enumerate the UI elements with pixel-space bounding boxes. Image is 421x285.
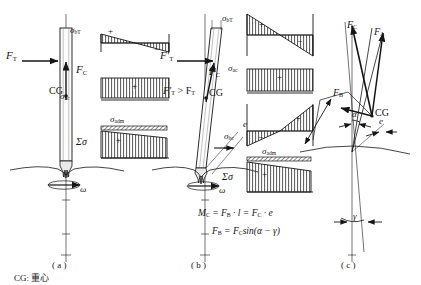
sign-minus-a-bending: −	[154, 45, 159, 54]
label-force-bend-c: FB	[333, 88, 343, 99]
label-inequality-b: F′T > FT	[163, 86, 195, 97]
stress-plot-b-bending-comp	[247, 104, 313, 146]
panel-caption-b: ( b )	[191, 260, 206, 270]
label-sigma-adm-b: σadm	[262, 147, 276, 157]
panel-c-drawing	[300, 22, 410, 262]
sign-plus-a-bending: +	[108, 27, 113, 36]
figure-legend: CG: 重心	[14, 271, 49, 284]
label-cg-b: CG	[209, 88, 223, 98]
label-eccentricity-b: e	[243, 120, 247, 129]
stress-plot-b-sum	[247, 157, 313, 192]
label-sigma-ac-a: σac	[60, 92, 69, 102]
sign-plus-a-axial: +	[132, 82, 137, 91]
sign-minus-b-bending-comp: −	[258, 133, 263, 142]
label-sigma-ac-b: σac	[228, 64, 237, 74]
sign-plus-b-bending-tension: +	[259, 20, 264, 29]
label-force-axial-c: FA	[374, 27, 385, 38]
stress-plot-a-sum	[101, 126, 169, 158]
sign-plus-b-bending-comp: +	[296, 114, 301, 123]
label-sigma-bc-b: σbc	[224, 132, 234, 142]
label-omega-b: ω	[219, 186, 225, 195]
panel-caption-a: ( a )	[52, 260, 67, 270]
engineering-figure: FT FC CG ω σbT σac σadm Σσ + − + + ( a )…	[0, 0, 421, 285]
sign-plus-a-sum: +	[116, 136, 121, 145]
label-force-tension-a: FT	[6, 50, 17, 62]
label-force-comp-a: FC	[76, 64, 87, 76]
sign-plus-b-axial: +	[277, 73, 282, 82]
label-angle-gamma-c: γ	[353, 212, 357, 221]
stress-plot-b-bending-tension	[247, 14, 313, 56]
equation-bending-force: FB = FCsin(α − γ)	[212, 226, 280, 236]
label-eccentricity-c: e	[379, 117, 383, 126]
label-sigma-sum-a: Σσ	[76, 137, 87, 147]
label-omega-a: ω	[80, 185, 86, 194]
label-sigma-bt-a: σbT	[70, 26, 81, 36]
figure-drawing	[0, 0, 421, 285]
label-sigma-sum-b: Σσ	[222, 172, 233, 182]
sign-plus-b-sum: +	[262, 170, 267, 179]
panel-caption-c: ( c )	[341, 260, 356, 270]
label-force-tension-b: F′T	[160, 50, 173, 62]
label-sigma-adm-a: σadm	[110, 115, 124, 125]
label-sigma-bt-b: σbT	[222, 14, 233, 24]
panel-a-drawing	[10, 14, 169, 262]
label-force-comp-c: FC	[347, 20, 357, 31]
label-force-comp-b: FC	[209, 66, 220, 78]
sign-minus-b-bending-tension: −	[297, 37, 302, 46]
label-angle-alpha-c: α	[352, 110, 357, 119]
equation-moment: MC = FB · l = FC · e	[198, 208, 273, 218]
